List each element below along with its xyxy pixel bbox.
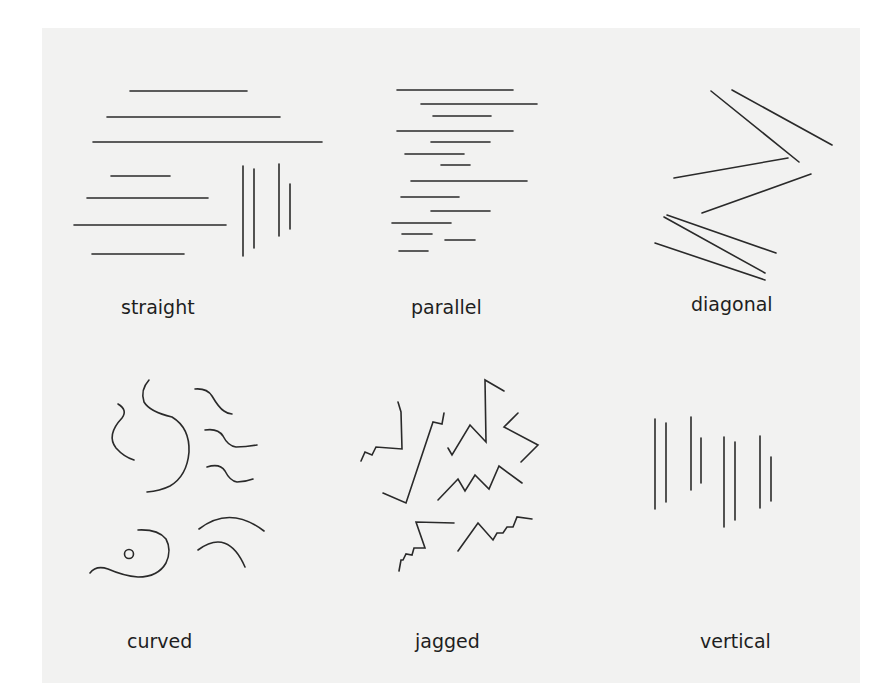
label-curved: curved: [127, 632, 192, 651]
label-diagonal: diagonal: [691, 295, 773, 314]
line-types-diagram: [0, 0, 895, 699]
label-vertical: vertical: [700, 632, 771, 651]
label-jagged: jagged: [415, 632, 480, 651]
label-straight: straight: [121, 298, 195, 317]
vertical-lines-illustration: [655, 417, 771, 527]
straight-lines-illustration: [74, 91, 322, 256]
parallel-lines-illustration: [392, 90, 537, 251]
diagonal-lines-illustration: [655, 90, 832, 280]
curved-lines-illustration: [90, 380, 264, 577]
jagged-lines-illustration: [361, 380, 538, 571]
label-parallel: parallel: [411, 298, 482, 317]
